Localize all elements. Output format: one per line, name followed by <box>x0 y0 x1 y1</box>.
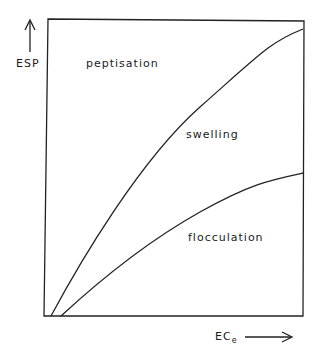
diagram-canvas <box>0 0 319 363</box>
x-axis-label-subscript: e <box>232 336 237 345</box>
y-axis-arrow-icon <box>25 20 35 52</box>
lower-boundary-curve <box>61 173 303 316</box>
region-label-flocculation: flocculation <box>188 231 264 244</box>
upper-boundary-curve <box>51 29 303 316</box>
region-label-swelling: swelling <box>186 128 239 141</box>
x-axis-arrow-icon <box>245 332 292 342</box>
x-axis-label-main: EC <box>215 330 232 343</box>
plot-frame <box>44 19 304 316</box>
x-axis-label: ECe <box>215 330 237 343</box>
region-label-peptisation: peptisation <box>86 57 159 70</box>
y-axis-label: ESP <box>16 57 40 70</box>
